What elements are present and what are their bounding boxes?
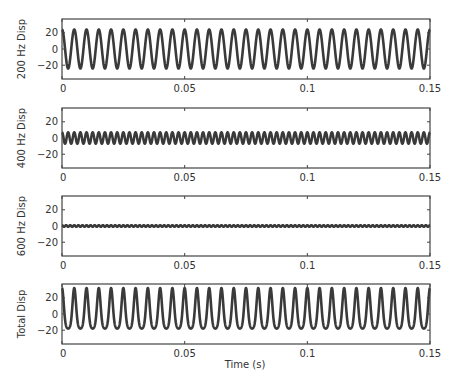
x-tick-label: 0.05 [174, 260, 196, 271]
subplot-1: 00.050.10.15−20020200 Hz Disp [16, 19, 441, 94]
x-axis-label: Time (s) [224, 359, 266, 370]
x-tick-label: 0.05 [174, 348, 196, 359]
y-tick-label: −20 [37, 149, 58, 160]
x-tick-label: 0.05 [174, 172, 196, 183]
x-tick-label: 0.1 [299, 260, 315, 271]
y-tick-label: 20 [45, 116, 58, 127]
y-tick-label: 0 [52, 44, 58, 55]
x-tick-label: 0 [60, 348, 66, 359]
y-tick-label: 0 [52, 309, 58, 320]
signal-line [62, 30, 430, 69]
x-tick-label: 0.1 [299, 348, 315, 359]
y-axis-label: 600 Hz Disp [16, 196, 27, 256]
y-tick-label: −20 [37, 60, 58, 71]
x-tick-label: 0.15 [419, 348, 441, 359]
x-tick-label: 0.1 [299, 172, 315, 183]
x-tick-label: 0.15 [419, 83, 441, 94]
subplot-4: 00.050.10.15−20020Total Disp [16, 284, 441, 359]
y-axis-label: Total Disp [16, 290, 27, 340]
y-axis-label: 400 Hz Disp [16, 108, 27, 168]
signal-line [62, 288, 430, 329]
x-tick-label: 0 [60, 83, 66, 94]
x-tick-label: 0.1 [299, 83, 315, 94]
y-axis-label: 200 Hz Disp [16, 19, 27, 79]
x-tick-label: 0 [60, 260, 66, 271]
axes-box [62, 19, 430, 79]
y-tick-label: 20 [45, 27, 58, 38]
y-tick-label: 20 [45, 292, 58, 303]
subplot-2: 00.050.10.15−20020400 Hz Disp [16, 108, 441, 183]
axes-box [62, 108, 430, 168]
y-tick-label: −20 [37, 325, 58, 336]
y-tick-label: 0 [52, 133, 58, 144]
signal-line [62, 225, 430, 227]
subplot-3: 00.050.10.15−20020600 Hz Disp [16, 196, 441, 271]
y-tick-label: 20 [45, 204, 58, 215]
x-tick-label: 0.05 [174, 83, 196, 94]
y-tick-label: −20 [37, 237, 58, 248]
x-tick-label: 0.15 [419, 172, 441, 183]
x-tick-label: 0 [60, 172, 66, 183]
signal-line [62, 132, 430, 143]
x-tick-label: 0.15 [419, 260, 441, 271]
figure: 00.050.10.15−20020200 Hz Disp00.050.10.1… [0, 0, 463, 390]
y-tick-label: 0 [52, 221, 58, 232]
